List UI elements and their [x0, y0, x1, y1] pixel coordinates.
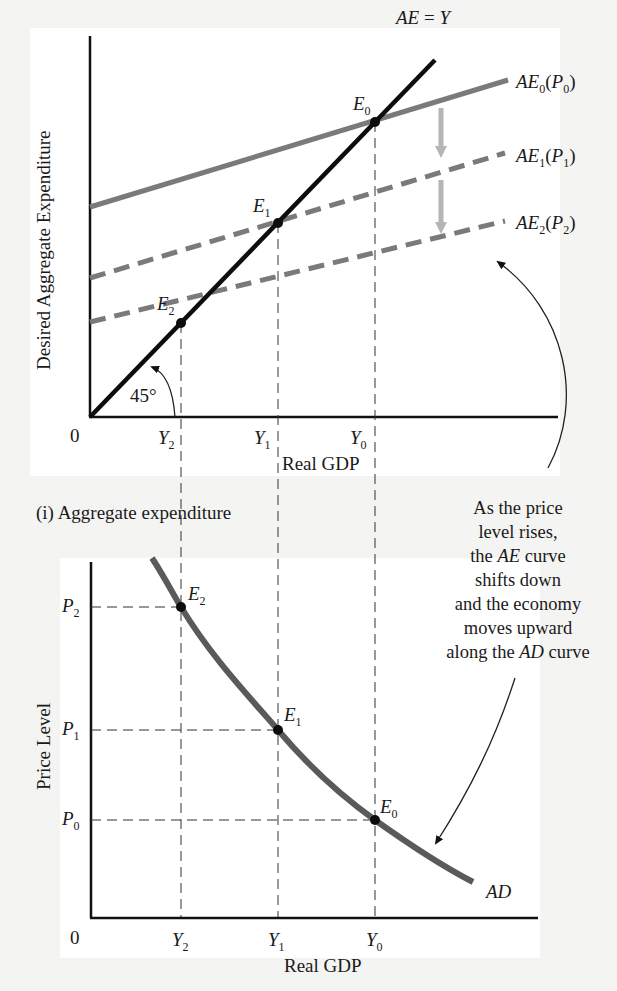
origin-label-bottom: 0 — [70, 927, 80, 948]
top-panel-background — [30, 28, 560, 476]
point-e0-bottom — [370, 815, 380, 825]
bottom-y-axis-title: Price Level — [33, 703, 54, 790]
top-y-axis-title: Desired Aggregate Expenditure — [33, 130, 54, 370]
figure: 45° AE = Y AE0(P0) AE1(P1) AE2(P2) E0 E1… — [0, 0, 617, 991]
panel-caption: (i) Aggregate expenditure — [36, 502, 231, 524]
point-e1-bottom — [273, 725, 283, 735]
point-e1-top — [273, 218, 283, 228]
note-line-6: moves upward — [464, 618, 573, 638]
origin-label-top: 0 — [70, 425, 80, 446]
bottom-x-axis-title: Real GDP — [284, 955, 362, 976]
note-line-7: along the AD curve — [446, 642, 589, 662]
note-line-3: the AE curve — [470, 546, 566, 566]
point-e2-top — [176, 318, 186, 328]
note-line-4: shifts down — [475, 570, 561, 590]
label-ad: AD — [484, 881, 512, 902]
note-line-5: and the economy — [455, 594, 582, 614]
note-line-1: As the price — [473, 498, 562, 518]
note-line-2: level rises, — [478, 522, 557, 542]
label-ae-equals-y: AE = Y — [394, 7, 452, 28]
top-x-axis-title: Real GDP — [282, 453, 360, 474]
point-e2-bottom — [176, 602, 186, 612]
angle-label: 45° — [130, 385, 157, 406]
point-e0-top — [370, 117, 380, 127]
